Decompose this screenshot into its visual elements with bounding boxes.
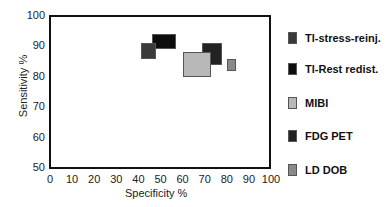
y-tick-label: 80 <box>33 70 45 82</box>
legend-item: FDG PET <box>288 125 381 147</box>
y-tick-label: 50 <box>33 161 45 173</box>
data-box <box>227 59 236 71</box>
x-tick-label: 40 <box>132 173 144 185</box>
legend-item: LD DOB <box>288 159 381 181</box>
legend-swatch <box>288 164 297 176</box>
x-axis-label: Specificity % <box>125 187 187 199</box>
legend-label: MIBI <box>305 97 328 109</box>
x-tick-label: 10 <box>66 173 78 185</box>
y-axis-label: Sensitivity % <box>17 51 29 121</box>
y-tick-label: 60 <box>33 131 45 143</box>
data-box <box>141 43 156 58</box>
chart: Sensitivity % Specificity % Tl-stress-re… <box>0 0 388 207</box>
x-tick-label: 30 <box>110 173 122 185</box>
legend-label: Tl-Rest redist. <box>305 63 378 75</box>
legend-item: Tl-stress-reinj. <box>288 27 381 49</box>
legend-label: Tl-stress-reinj. <box>305 32 381 44</box>
data-box <box>183 52 212 76</box>
legend-swatch <box>288 97 297 109</box>
legend-swatch <box>288 32 297 44</box>
x-tick-label: 100 <box>262 173 280 185</box>
x-tick-label: 90 <box>243 173 255 185</box>
legend-item: MIBI <box>288 92 381 114</box>
x-tick-label: 0 <box>47 173 53 185</box>
y-tick-label: 70 <box>33 100 45 112</box>
legend-swatch <box>288 130 297 142</box>
x-tick-label: 50 <box>154 173 166 185</box>
x-tick-label: 20 <box>88 173 100 185</box>
x-tick-label: 70 <box>199 173 211 185</box>
x-tick-label: 80 <box>221 173 233 185</box>
y-tick-label: 100 <box>27 9 45 21</box>
legend-item: Tl-Rest redist. <box>288 58 381 80</box>
y-tick-label: 90 <box>33 39 45 51</box>
x-tick-label: 60 <box>176 173 188 185</box>
legend-swatch <box>288 63 297 75</box>
legend-label: LD DOB <box>305 164 347 176</box>
legend: Tl-stress-reinj.Tl-Rest redist.MIBIFDG P… <box>288 27 381 192</box>
legend-label: FDG PET <box>305 130 353 142</box>
